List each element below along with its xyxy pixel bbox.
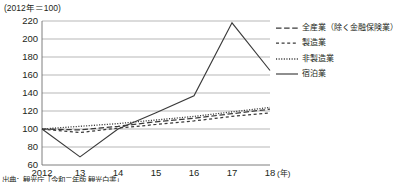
y-axis-tick-label: 80 xyxy=(27,141,38,152)
data-series-group xyxy=(42,23,270,157)
legend-item[interactable]: 宿泊業 xyxy=(276,67,400,83)
x-axis-tick-label: 15 xyxy=(151,167,162,178)
legend-swatch-icon xyxy=(276,69,298,79)
chart-legend: 全産業（除く金融保険業）製造業非製造業宿泊業 xyxy=(276,20,400,82)
legend-swatch-icon xyxy=(276,38,298,48)
x-axis-tick-label: 18 xyxy=(265,167,276,178)
series-line xyxy=(42,107,270,129)
legend-item[interactable]: 非製造業 xyxy=(276,51,400,67)
x-axis-tick-label: 16 xyxy=(189,167,200,178)
x-axis-tick-label: 17 xyxy=(227,167,238,178)
source-note: 出典：観光庁「令和二年版 観光白書」 xyxy=(2,174,123,183)
legend-swatch-icon xyxy=(276,54,298,64)
legend-item[interactable]: 製造業 xyxy=(276,36,400,52)
y-axis-tick-label: 180 xyxy=(22,51,38,62)
legend-label: 全産業（除く金融保険業） xyxy=(302,23,398,33)
legend-label: 非製造業 xyxy=(302,54,334,64)
legend-label: 製造業 xyxy=(302,38,326,48)
legend-label: 宿泊業 xyxy=(302,69,326,79)
gridlines xyxy=(42,21,270,165)
series-line xyxy=(42,23,270,157)
y-axis-tick-label: 100 xyxy=(22,123,38,134)
y-axis-tick-label: 120 xyxy=(22,105,38,116)
x-axis-unit-label: (年) xyxy=(277,168,291,178)
chart-container: (2012年＝100) 2202001801601401201008060 20… xyxy=(0,0,400,182)
y-axis-tick-label: 220 xyxy=(22,15,38,26)
y-axis-tick-label: 160 xyxy=(22,69,38,80)
legend-swatch-icon xyxy=(276,23,298,33)
y-axis-tick-label: 140 xyxy=(22,87,38,98)
legend-item[interactable]: 全産業（除く金融保険業） xyxy=(276,20,400,36)
y-axis-tick-labels: 2202001801601401201008060 xyxy=(22,15,38,170)
y-axis-tick-label: 200 xyxy=(22,33,38,44)
